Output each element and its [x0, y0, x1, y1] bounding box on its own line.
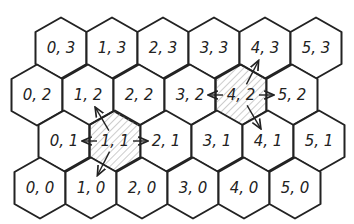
hex-cell: 3, 0	[168, 158, 219, 219]
hex-label: 0, 0	[26, 179, 55, 197]
hex-label: 5, 2	[278, 86, 307, 104]
hex-label: 4, 1	[254, 132, 283, 150]
hex-label: 0, 2	[23, 86, 52, 104]
hex-label: 4, 3	[251, 39, 280, 57]
hex-cell: 4, 0	[219, 158, 270, 219]
hex-label: 3, 1	[203, 132, 232, 150]
hex-cell: 2, 0	[117, 158, 168, 219]
hex-label: 2, 3	[149, 39, 178, 57]
hex-label: 0, 3	[47, 39, 76, 57]
hex-label: 3, 2	[176, 86, 205, 104]
hex-label: 3, 3	[200, 39, 229, 57]
hex-label: 0, 1	[50, 132, 79, 150]
hex-cell: 1, 0	[66, 158, 117, 219]
hex-label: 4, 2	[227, 86, 256, 104]
hex-cell: 5, 0	[270, 158, 321, 219]
hex-label: 1, 0	[77, 179, 106, 197]
hex-grid-svg: 0, 31, 32, 33, 34, 35, 30, 21, 22, 23, 2…	[0, 0, 354, 224]
hex-label: 5, 3	[302, 39, 331, 57]
hex-label: 3, 0	[179, 179, 208, 197]
hex-label: 4, 0	[230, 179, 259, 197]
hex-label: 2, 1	[152, 132, 181, 150]
hex-grid-diagram: 0, 31, 32, 33, 34, 35, 30, 21, 22, 23, 2…	[0, 0, 354, 224]
hex-label: 2, 2	[125, 86, 154, 104]
hex-cell: 0, 0	[15, 158, 66, 219]
hex-label: 2, 0	[128, 179, 157, 197]
hex-label: 5, 1	[305, 132, 334, 150]
hex-label: 1, 1	[101, 132, 130, 150]
hex-label: 1, 2	[74, 86, 103, 104]
hex-label: 1, 3	[98, 39, 127, 57]
hex-label: 5, 0	[281, 179, 310, 197]
